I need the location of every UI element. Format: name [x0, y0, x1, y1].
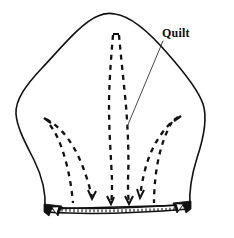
quilt-label: Quilt [162, 27, 190, 39]
quilt-diagram-figure: Quilt [0, 0, 234, 238]
quilted-panel-outline [16, 13, 205, 209]
notch-left [44, 204, 62, 216]
quilt-diagram-canvas [0, 0, 234, 238]
notch-right [173, 201, 191, 213]
